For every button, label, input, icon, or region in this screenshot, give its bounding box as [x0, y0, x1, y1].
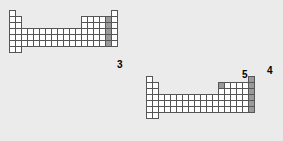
periodic-table-2 [146, 76, 254, 118]
element-cell-empty [248, 112, 255, 119]
element-cell-empty [111, 46, 118, 53]
periodic-table-row [9, 46, 117, 52]
periodic-table-row [146, 112, 254, 118]
periodic-table-1 [9, 10, 117, 52]
diagram-canvas: 354 [0, 0, 283, 141]
callout-label-5: 5 [242, 70, 248, 80]
callout-label-3: 3 [117, 60, 123, 70]
callout-label-4: 4 [267, 66, 273, 76]
